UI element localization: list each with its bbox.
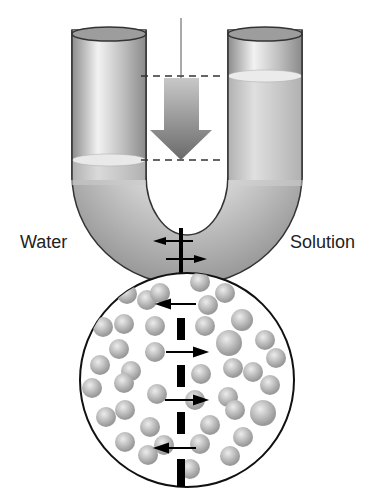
u-tube <box>72 27 302 285</box>
solution-label: Solution <box>290 232 355 253</box>
water-label: Water <box>20 232 67 253</box>
pressure-arrow-icon <box>150 18 212 160</box>
magnified-view <box>80 272 294 487</box>
